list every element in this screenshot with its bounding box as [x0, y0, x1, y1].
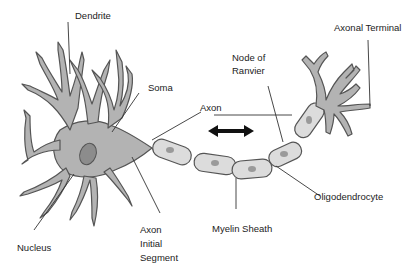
label-axon-initial-segment-2: Initial	[140, 238, 162, 250]
neuron-diagram: Dendrite Soma Axon Node of Ranvier Axona…	[0, 0, 418, 277]
label-axon: Axon	[200, 102, 222, 114]
label-nucleus: Nucleus	[17, 242, 51, 254]
label-axon-initial-segment-3: Segment	[140, 252, 178, 264]
double-headed-arrow-icon	[208, 125, 254, 137]
label-axonal-terminal: Axonal Terminal	[334, 22, 401, 34]
neuron-illustration	[0, 0, 418, 277]
label-myelin-sheath: Myelin Sheath	[212, 223, 272, 235]
label-oligodendrocyte: Oligodendrocyte	[314, 191, 383, 203]
label-dendrite: Dendrite	[75, 10, 111, 22]
label-axon-initial-segment-1: Axon	[140, 224, 162, 236]
label-node-of-ranvier-1: Node of	[232, 52, 265, 64]
soma-and-dendrites	[20, 42, 152, 226]
myelin-segments	[150, 100, 327, 180]
label-soma: Soma	[148, 82, 173, 94]
label-node-of-ranvier-2: Ranvier	[232, 65, 265, 77]
